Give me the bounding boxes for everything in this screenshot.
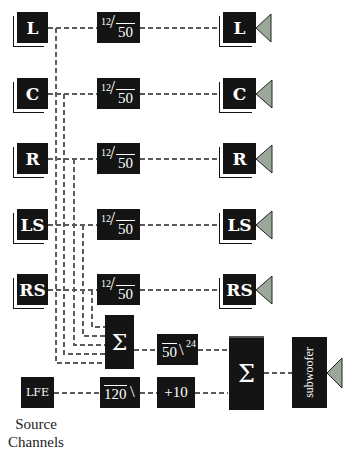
lowpass-filter-block: 50 \ 24 (157, 334, 198, 365)
highpass-filter-R: 12 / 50 (97, 143, 140, 174)
bass-sum-block: Σ (105, 315, 134, 369)
output-channel-L: L (223, 12, 256, 43)
source-channel-L: L (17, 12, 48, 43)
subwoofer-block: subwoofer (292, 337, 327, 408)
highpass-filter-LS: 12 / 50 (97, 209, 140, 240)
source-channel-LFE: LFE (21, 377, 54, 408)
lfe-gain-block: +10 (157, 377, 195, 408)
bass-management-diagram: L C R LS RS LFE 12 / 50 12 / 50 12 / 50 … (0, 0, 357, 457)
output-channel-R: R (223, 143, 256, 174)
source-channel-C: C (17, 78, 48, 109)
source-channel-R: R (17, 143, 48, 174)
output-channel-RS: RS (223, 274, 256, 305)
source-channel-RS: RS (17, 274, 48, 305)
highpass-filter-C: 12 / 50 (97, 78, 140, 109)
highpass-filter-RS: 12 / 50 (97, 274, 140, 305)
output-channel-C: C (223, 78, 256, 109)
output-channel-LS: LS (223, 209, 256, 240)
lfe-filter-block: 120 \ (100, 377, 140, 408)
final-sum-block: Σ (229, 336, 264, 410)
source-channel-LS: LS (17, 209, 48, 240)
highpass-filter-L: 12 / 50 (97, 12, 140, 43)
source-channels-caption: Source Channels (0, 415, 72, 451)
